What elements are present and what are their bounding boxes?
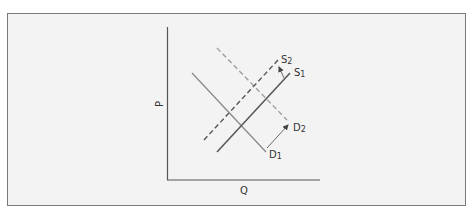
supply-shift-arrow: [279, 67, 284, 78]
label-d2: D2: [293, 122, 306, 134]
demand-shift-arrow: [267, 125, 288, 148]
y-axis-label: P: [154, 101, 165, 107]
label-d1: D1: [269, 149, 282, 161]
demand-curve-d2: [217, 48, 287, 120]
supply-demand-diagram: P Q S2 S1 D2 D1: [0, 0, 475, 213]
x-axis-label: Q: [240, 185, 248, 196]
label-s1: S1: [294, 67, 305, 79]
label-s2: S2: [281, 54, 292, 66]
